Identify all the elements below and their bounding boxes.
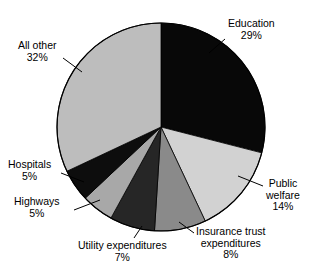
pie-label-education-value: 29% [228, 30, 275, 42]
pie-label-public-welfare-value: 14% [266, 201, 300, 213]
pie-label-utility-expenditures-value: 7% [78, 252, 167, 264]
pie-label-all-other-value: 32% [18, 52, 57, 64]
pie-label-utility-expenditures: Utility expenditures 7% [78, 240, 167, 263]
pie-label-education: Education 29% [228, 18, 275, 41]
pie-label-public-welfare: Public welfare 14% [266, 178, 300, 213]
pie-label-highways-name: Highways [14, 196, 60, 208]
pie-label-hospitals: Hospitals 5% [8, 159, 51, 182]
pie-label-all-other-name: All other [18, 40, 57, 52]
pie-label-education-name: Education [228, 18, 275, 30]
pie-label-insurance-trust: Insurance trust expenditures 8% [196, 226, 265, 261]
pie-label-public-welfare-name-line1: Public [266, 178, 300, 190]
pie-label-utility-expenditures-name: Utility expenditures [78, 240, 167, 252]
pie-label-hospitals-value: 5% [8, 171, 51, 183]
pie-chart-figure: Education 29% Public welfare 14% Insuran… [0, 0, 312, 276]
pie-label-highways-value: 5% [14, 208, 60, 220]
pie-label-insurance-trust-value: 8% [196, 249, 265, 261]
pie-label-highways: Highways 5% [14, 196, 60, 219]
pie-label-hospitals-name: Hospitals [8, 159, 51, 171]
pie-label-all-other: All other 32% [18, 40, 57, 63]
pie-label-insurance-trust-name-line1: Insurance trust [196, 226, 265, 238]
pie-slices-group [57, 23, 265, 231]
